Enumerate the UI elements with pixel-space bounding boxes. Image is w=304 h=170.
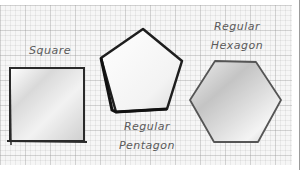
hexagon-label-line-2: Hexagon [206, 39, 268, 53]
hexagon-label: Regular Hexagon [206, 20, 268, 53]
square-label-line-1: Square [29, 44, 71, 57]
pentagon-label: Regular Pentagon [116, 120, 178, 153]
square-label: Square [22, 44, 78, 58]
hexagon-label-line-1: Regular [206, 20, 268, 34]
square-shape [7, 68, 87, 145]
regular-pentagon-shape [101, 29, 182, 112]
pentagon-label-line-2: Pentagon [116, 139, 178, 153]
pentagon-label-line-1: Regular [116, 120, 178, 134]
regular-hexagon-shape [190, 61, 281, 142]
